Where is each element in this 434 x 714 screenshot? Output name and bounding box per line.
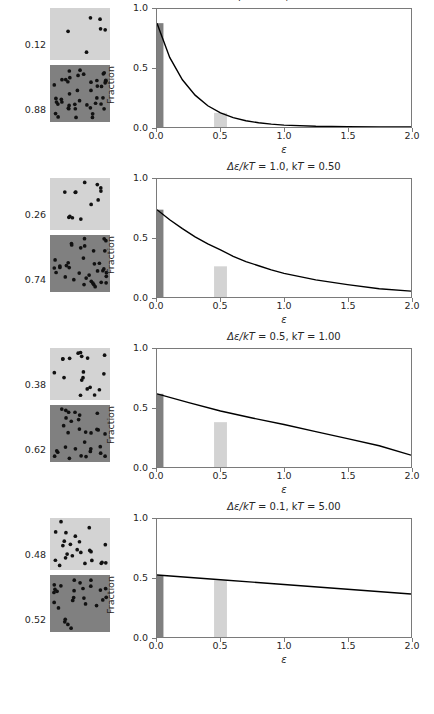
y-tick-label: 0.5 xyxy=(118,63,148,73)
state-boxes-1: 0.120.88 xyxy=(50,8,110,154)
plot-area xyxy=(156,348,412,468)
particle-box-light xyxy=(50,8,110,60)
x-tick-mark xyxy=(284,468,285,472)
x-tick-label: 2.0 xyxy=(395,471,429,481)
x-tick-mark xyxy=(220,468,221,472)
particle-box-dark xyxy=(50,575,110,632)
y-tick-label: 0.5 xyxy=(118,233,148,243)
particle-box-dark xyxy=(50,405,110,462)
x-tick-label: 1.0 xyxy=(267,471,301,481)
y-tick-label: 1.0 xyxy=(118,3,148,13)
lower-fraction-label: 0.88 xyxy=(2,105,46,115)
lower-fraction-label: 0.62 xyxy=(2,445,46,455)
x-tick-mark xyxy=(412,468,413,472)
ground-state-box: 0.52 xyxy=(50,575,110,632)
x-tick-label: 2.0 xyxy=(395,131,429,141)
x-tick-label: 2.0 xyxy=(395,301,429,311)
particle-box-light xyxy=(50,518,110,570)
state-boxes-3: 0.380.62 xyxy=(50,348,110,494)
panel-title: Δε/kT = 2.0, kT = 0.25 xyxy=(156,0,412,2)
x-tick-mark xyxy=(156,468,157,472)
y-tick-label: 0.5 xyxy=(118,403,148,413)
plot-area xyxy=(156,178,412,298)
x-axis-label: ε xyxy=(156,484,412,495)
state-boxes-4: 0.480.52 xyxy=(50,518,110,664)
panel-title: Δε/kT = 0.5, kT = 1.00 xyxy=(156,331,412,342)
x-tick-mark xyxy=(412,298,413,302)
particle-box-dark xyxy=(50,235,110,292)
y-axis-label: Fraction xyxy=(105,406,116,444)
panel-title: Δε/kT = 1.0, kT = 0.50 xyxy=(156,161,412,172)
particle-box-light xyxy=(50,178,110,230)
x-tick-label: 1.5 xyxy=(331,471,365,481)
x-tick-mark xyxy=(156,638,157,642)
y-axis-label: Fraction xyxy=(105,66,116,104)
particle-box-light xyxy=(50,348,110,400)
ground-state-box: 0.62 xyxy=(50,405,110,462)
x-tick-mark xyxy=(284,128,285,132)
x-tick-label: 1.5 xyxy=(331,301,365,311)
x-tick-mark xyxy=(284,298,285,302)
excited-state-box: 0.38 xyxy=(50,348,110,400)
x-tick-mark xyxy=(348,638,349,642)
x-tick-label: 1.0 xyxy=(267,641,301,651)
y-axis-label: Fraction xyxy=(105,576,116,614)
y-tick-label: 1.0 xyxy=(118,343,148,353)
x-tick-mark xyxy=(284,638,285,642)
x-tick-mark xyxy=(220,638,221,642)
x-tick-label: 0.5 xyxy=(203,301,237,311)
x-tick-label: 0.0 xyxy=(139,301,173,311)
x-tick-mark xyxy=(156,298,157,302)
lower-fraction-label: 0.74 xyxy=(2,275,46,285)
plot-area xyxy=(156,8,412,128)
ground-state-box: 0.74 xyxy=(50,235,110,292)
x-tick-mark xyxy=(220,298,221,302)
x-axis-label: ε xyxy=(156,654,412,665)
panel-1: 0.120.88Δε/kT = 2.0, kT = 0.25Fraction0.… xyxy=(0,0,434,170)
x-axis-label: ε xyxy=(156,144,412,155)
x-tick-label: 0.5 xyxy=(203,471,237,481)
x-tick-mark xyxy=(412,638,413,642)
x-tick-label: 0.0 xyxy=(139,471,173,481)
x-tick-label: 0.5 xyxy=(203,641,237,651)
lower-fraction-label: 0.52 xyxy=(2,615,46,625)
y-tick-label: 0.5 xyxy=(118,573,148,583)
x-tick-mark xyxy=(348,128,349,132)
panel-2: 0.260.74Δε/kT = 1.0, kT = 0.50Fraction0.… xyxy=(0,170,434,340)
y-tick-label: 1.0 xyxy=(118,513,148,523)
upper-fraction-label: 0.26 xyxy=(2,210,46,220)
x-axis-label: ε xyxy=(156,314,412,325)
excited-state-box: 0.26 xyxy=(50,178,110,230)
excited-state-box: 0.48 xyxy=(50,518,110,570)
x-tick-label: 1.0 xyxy=(267,301,301,311)
x-tick-label: 1.5 xyxy=(331,131,365,141)
panel-3: 0.380.62Δε/kT = 0.5, kT = 1.00Fraction0.… xyxy=(0,340,434,510)
excited-state-box: 0.12 xyxy=(50,8,110,60)
x-tick-label: 0.0 xyxy=(139,131,173,141)
x-tick-label: 2.0 xyxy=(395,641,429,651)
panel-title: Δε/kT = 0.1, kT = 5.00 xyxy=(156,501,412,512)
particle-box-dark xyxy=(50,65,110,122)
state-boxes-2: 0.260.74 xyxy=(50,178,110,324)
x-tick-mark xyxy=(348,468,349,472)
figure-root: 0.120.88Δε/kT = 2.0, kT = 0.25Fraction0.… xyxy=(0,0,434,714)
x-tick-mark xyxy=(220,128,221,132)
y-axis-label: Fraction xyxy=(105,236,116,274)
x-tick-label: 0.5 xyxy=(203,131,237,141)
y-tick-label: 1.0 xyxy=(118,173,148,183)
panel-4: 0.480.52Δε/kT = 0.1, kT = 5.00Fraction0.… xyxy=(0,510,434,680)
upper-fraction-label: 0.38 xyxy=(2,380,46,390)
plot-area xyxy=(156,518,412,638)
ground-state-box: 0.88 xyxy=(50,65,110,122)
x-tick-label: 1.5 xyxy=(331,641,365,651)
x-tick-mark xyxy=(348,298,349,302)
upper-fraction-label: 0.48 xyxy=(2,550,46,560)
x-tick-mark xyxy=(156,128,157,132)
x-tick-label: 1.0 xyxy=(267,131,301,141)
x-tick-mark xyxy=(412,128,413,132)
x-tick-label: 0.0 xyxy=(139,641,173,651)
upper-fraction-label: 0.12 xyxy=(2,40,46,50)
